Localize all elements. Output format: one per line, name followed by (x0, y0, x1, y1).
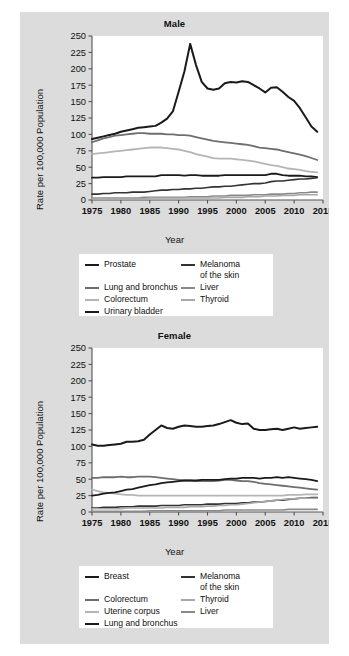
chart-title-male: Male (20, 18, 329, 29)
female-y-tick-label: 0 (81, 507, 86, 517)
legend-female: BreastMelanomaof the skinColorectumThyro… (79, 566, 273, 628)
male-x-tick-label: 2000 (226, 206, 247, 216)
female-y-tick-label: 250 (70, 343, 86, 353)
male-x-tick-label: 2015 (313, 206, 329, 216)
legend-swatch-icon (181, 611, 195, 613)
female-y-tick-label: 75 (76, 458, 86, 468)
legend-female-grid: BreastMelanomaof the skinColorectumThyro… (79, 566, 273, 633)
male-x-tick-label: 1995 (197, 206, 218, 216)
female-y-tick-label: 125 (70, 425, 86, 435)
legend-swatch-icon (85, 299, 99, 301)
legend-label: Prostate (104, 259, 136, 270)
figure-root: Male Rate per 100,000 Population 0255075… (0, 0, 349, 656)
male-y-tick-label: 150 (70, 97, 86, 107)
female-x-tick-label: 1995 (197, 518, 218, 528)
legend-label: Thyroid (200, 594, 229, 605)
male-x-tick-label: 1975 (82, 206, 103, 216)
male-x-tick-label: 1985 (139, 206, 160, 216)
female-y-tick-label: 50 (76, 475, 86, 485)
legend-female-item-colorectum[interactable]: Colorectum (85, 594, 181, 605)
female-y-tick-label: 225 (70, 360, 86, 370)
female-y-tick-label: 175 (70, 393, 86, 403)
female-y-tick-label: 25 (76, 491, 86, 501)
legend-male: ProstateMelanomaof the skinLung and bron… (79, 254, 273, 316)
male-y-tick-label: 50 (76, 163, 86, 173)
legend-swatch-icon (85, 311, 99, 313)
male-svg: 0255075100125150175200225250197519801985… (50, 30, 329, 230)
legend-swatch-icon (85, 599, 99, 601)
female-svg: 0255075100125150175200225250197519801985… (50, 342, 329, 542)
legend-male-item-urinary-bladder[interactable]: Urinary bladder (85, 306, 181, 317)
male-y-tick-label: 75 (76, 146, 86, 156)
legend-swatch-icon (85, 611, 99, 613)
legend-swatch-icon (85, 287, 99, 289)
legend-male-item-thyroid[interactable]: Thyroid (181, 294, 279, 305)
legend-label: Uterine corpus (104, 606, 160, 617)
female-x-tick-label: 1985 (139, 518, 160, 528)
male-y-tick-label: 200 (70, 64, 86, 74)
male-y-tick-label: 125 (70, 113, 86, 123)
legend-swatch-icon (181, 599, 195, 601)
legend-label: Breast (104, 571, 129, 582)
y-axis-label-female: Rate per 100,000 Population (34, 401, 45, 522)
male-x-tick-label: 1980 (111, 206, 132, 216)
legend-male-item-lung-and-bronchus[interactable]: Lung and bronchus (85, 282, 181, 293)
legend-male-item-liver[interactable]: Liver (181, 282, 279, 293)
female-x-tick-label: 2010 (284, 518, 305, 528)
female-x-tick-label: 1990 (168, 518, 189, 528)
legend-label: Lung and bronchus (104, 618, 178, 629)
legend-female-item-thyroid[interactable]: Thyroid (181, 594, 279, 605)
male-y-tick-label: 175 (70, 81, 86, 91)
male-x-tick-label: 1990 (168, 206, 189, 216)
legend-label: Colorectum (104, 294, 148, 305)
legend-male-item-colorectum[interactable]: Colorectum (85, 294, 181, 305)
male-y-tick-label: 100 (70, 130, 86, 140)
legend-female-item-breast[interactable]: Breast (85, 571, 181, 593)
panel-female: Female Rate per 100,000 Population 02550… (20, 324, 329, 644)
male-y-tick-label: 250 (70, 31, 86, 41)
female-y-tick-label: 200 (70, 376, 86, 386)
legend-male-item-prostate[interactable]: Prostate (85, 259, 181, 281)
legend-male-grid: ProstateMelanomaof the skinLung and bron… (79, 254, 273, 321)
legend-female-item-melanoma[interactable]: Melanomaof the skin (181, 571, 279, 593)
legend-label: Melanomaof the skin (200, 259, 240, 281)
legend-label: Melanomaof the skin (200, 571, 240, 593)
y-axis-label-male: Rate per 100,000 Population (34, 89, 45, 210)
chart-title-female: Female (20, 330, 329, 341)
male-x-tick-label: 2005 (255, 206, 276, 216)
legend-swatch-icon (85, 576, 99, 578)
plot-area-female: 0255075100125150175200225250197519801985… (50, 342, 329, 542)
legend-swatch-icon (85, 264, 99, 266)
female-y-tick-label: 150 (70, 409, 86, 419)
figure-card: Male Rate per 100,000 Population 0255075… (20, 12, 329, 644)
legend-label: Liver (200, 282, 219, 293)
female-x-tick-label: 1975 (82, 518, 103, 528)
legend-label: Thyroid (200, 294, 229, 305)
legend-female-item-uterine-corpus[interactable]: Uterine corpus (85, 606, 181, 617)
legend-label: Urinary bladder (104, 306, 163, 317)
male-y-tick-label: 225 (70, 48, 86, 58)
legend-swatch-icon (181, 264, 195, 266)
x-axis-label-male: Year (20, 234, 329, 245)
female-y-tick-label: 100 (70, 442, 86, 452)
female-x-tick-label: 2005 (255, 518, 276, 528)
legend-swatch-icon (181, 576, 195, 578)
legend-swatch-icon (85, 623, 99, 625)
legend-label: Colorectum (104, 594, 148, 605)
legend-swatch-icon (181, 287, 195, 289)
legend-label: Lung and bronchus (104, 282, 178, 293)
legend-male-item-empty (181, 306, 279, 317)
legend-female-item-liver[interactable]: Liver (181, 606, 279, 617)
female-x-tick-label: 1980 (111, 518, 132, 528)
panel-male: Male Rate per 100,000 Population 0255075… (20, 12, 329, 324)
legend-female-item-lung-and-bronchus[interactable]: Lung and bronchus (85, 618, 181, 629)
legend-label: Liver (200, 606, 219, 617)
female-x-tick-label: 2000 (226, 518, 247, 528)
plot-area-male: 0255075100125150175200225250197519801985… (50, 30, 329, 230)
legend-swatch-icon (181, 299, 195, 301)
legend-male-item-melanoma[interactable]: Melanomaof the skin (181, 259, 279, 281)
legend-female-item-empty (181, 618, 279, 629)
female-plot-background (92, 348, 323, 512)
male-y-tick-label: 0 (81, 195, 86, 205)
male-y-tick-label: 25 (76, 179, 86, 189)
